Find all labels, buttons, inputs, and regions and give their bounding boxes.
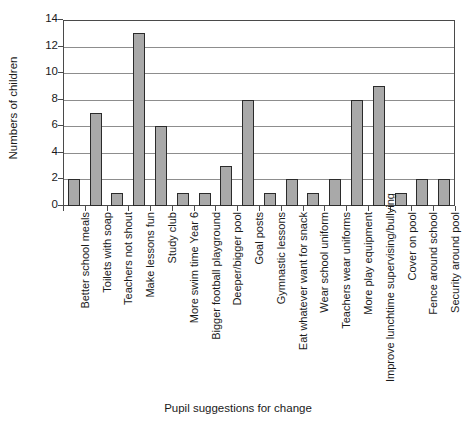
bar-slot: [368, 20, 390, 206]
x-axis-tick: [63, 206, 64, 211]
bar: [351, 100, 363, 206]
y-axis-tick: [58, 99, 63, 100]
bars-layer: [63, 20, 455, 206]
bar-slot: [107, 20, 129, 206]
y-axis-tick-label: 12: [22, 40, 58, 51]
x-axis-tick: [411, 206, 412, 211]
bar-slot: [303, 20, 325, 206]
bar: [111, 193, 123, 206]
x-axis-tick: [259, 206, 260, 211]
y-axis-tick: [58, 152, 63, 153]
x-axis-tick-label: Eat whatever want for snack: [297, 212, 311, 382]
y-axis-tick-label: 14: [22, 13, 58, 24]
bar: [220, 166, 232, 206]
y-axis-tick: [58, 46, 63, 47]
x-axis-tick-label: Improve lunchtime supervising/bullying: [384, 212, 398, 382]
x-axis-tick: [281, 206, 282, 211]
bar-slot: [281, 20, 303, 206]
x-axis-tick-label: Teachers wear uniforms: [340, 212, 354, 382]
bar-slot: [411, 20, 433, 206]
y-axis-tick-label: 6: [22, 119, 58, 130]
x-axis-tick: [433, 206, 434, 211]
x-axis-tick: [128, 206, 129, 211]
bar: [242, 100, 254, 206]
y-axis-tick-label: 0: [22, 199, 58, 210]
x-axis-tick-label: Deeper/bigger pool: [231, 212, 245, 382]
bar-slot: [128, 20, 150, 206]
bar-slot: [390, 20, 412, 206]
x-axis-tick-label: Security around pool: [449, 212, 463, 382]
y-axis-tick-label: 8: [22, 93, 58, 104]
bar-slot: [433, 20, 455, 206]
bar: [286, 179, 298, 206]
x-axis-tick: [303, 206, 304, 211]
bar-slot: [63, 20, 85, 206]
bar-slot: [172, 20, 194, 206]
bar: [307, 193, 319, 206]
x-axis-title: Pupil suggestions for change: [0, 402, 476, 414]
x-axis-tick-label: Bigger football playground: [210, 212, 224, 382]
x-axis-tick-label: Better school meals: [79, 212, 93, 382]
x-axis-tick-label: Cover on pool: [406, 212, 420, 382]
y-axis-tick-label: 2: [22, 172, 58, 183]
y-axis-tick: [58, 125, 63, 126]
bar: [133, 33, 145, 206]
bar: [68, 179, 80, 206]
bar-chart: Numbers of children 02468101214 Better s…: [0, 0, 476, 436]
bar: [199, 193, 211, 206]
x-axis-tick-label: Teachers not shout: [122, 212, 136, 382]
bar: [416, 179, 428, 206]
bar: [90, 113, 102, 206]
y-axis-tick: [58, 178, 63, 179]
x-axis-tick-label: Goal posts: [253, 212, 267, 382]
bar: [329, 179, 341, 206]
bar: [264, 193, 276, 206]
bar: [177, 193, 189, 206]
bar-slot: [150, 20, 172, 206]
x-axis-tick: [172, 206, 173, 211]
bar-slot: [346, 20, 368, 206]
x-axis-tick: [324, 206, 325, 211]
bar-slot: [259, 20, 281, 206]
x-axis-tick: [85, 206, 86, 211]
y-axis-tick-labels: 02468101214: [14, 0, 58, 436]
x-axis-tick-label: More play equipment: [362, 212, 376, 382]
y-axis-tick: [58, 19, 63, 20]
x-axis-tick: [150, 206, 151, 211]
bar-slot: [324, 20, 346, 206]
x-axis-tick: [215, 206, 216, 211]
x-axis-tick: [368, 206, 369, 211]
x-axis-tick: [194, 206, 195, 211]
x-axis-tick-label: Toilets with soap: [101, 212, 115, 382]
bar: [373, 86, 385, 206]
x-axis-tick: [455, 206, 456, 211]
bar: [438, 179, 450, 206]
y-axis-tick-label: 4: [22, 146, 58, 157]
x-axis-tick: [237, 206, 238, 211]
bar-slot: [85, 20, 107, 206]
x-axis-tick-label: Study club: [166, 212, 180, 382]
x-axis-tick-label: Gymnastic lessons: [275, 212, 289, 382]
bar: [155, 126, 167, 206]
y-axis-tick-label: 10: [22, 66, 58, 77]
x-axis-tick: [107, 206, 108, 211]
x-axis-tick-label: Make lessons fun: [144, 212, 158, 382]
y-axis-tick: [58, 72, 63, 73]
bar-slot: [215, 20, 237, 206]
x-axis-tick-labels: Better school mealsToilets with soapTeac…: [63, 212, 455, 392]
x-axis-tick-label: More swim time Year 6: [188, 212, 202, 382]
bar: [395, 193, 407, 206]
x-axis-tick: [346, 206, 347, 211]
bar-slot: [194, 20, 216, 206]
bar-slot: [237, 20, 259, 206]
x-axis-tick-label: Fence around school: [427, 212, 441, 382]
x-axis-tick-label: Wear school uniform: [318, 212, 332, 382]
y-axis-tick: [58, 205, 63, 206]
